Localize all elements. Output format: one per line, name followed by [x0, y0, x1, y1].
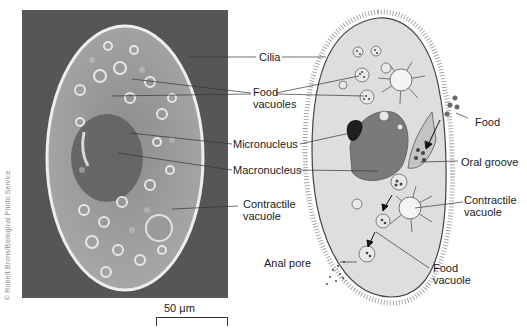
label-food-vacuoles-line1: Food	[253, 86, 278, 98]
label-food-vacuole-line2: vacuole	[433, 274, 471, 286]
label-contractile-vacuole-left-line2: vacuole	[243, 210, 281, 222]
paramecium-figure: © Robert Brons/Biological Photo Service …	[0, 0, 527, 333]
label-anal-pore: Anal pore	[264, 257, 311, 269]
label-macronucleus: Macronucleus	[233, 164, 301, 176]
label-cilia: Cilia	[259, 51, 280, 63]
label-oral-groove: Oral groove	[461, 156, 518, 168]
label-contractile-vacuole-right-line2: vacuole	[464, 206, 502, 218]
label-micronucleus: Micronucleus	[233, 138, 298, 150]
label-food: Food	[475, 116, 500, 128]
label-food-vacuole-line1: Food	[433, 262, 458, 274]
label-food-vacuoles-line2: vacuoles	[253, 98, 296, 110]
label-contractile-vacuole-right-line1: Contractile	[464, 194, 517, 206]
label-contractile-vacuole-left-line1: Contractile	[243, 198, 296, 210]
